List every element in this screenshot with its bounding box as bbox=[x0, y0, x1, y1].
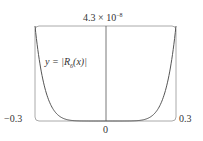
curve-label: y = |R6(x)| bbox=[45, 57, 87, 69]
curve-r6 bbox=[35, 26, 176, 121]
x-max-label: 0.3 bbox=[179, 114, 192, 124]
plot-frame bbox=[35, 26, 176, 121]
x-zero-label: 0 bbox=[103, 125, 108, 135]
x-min-label: −0.3 bbox=[4, 114, 22, 124]
y-max-label: 4.3 × 10−8 bbox=[83, 12, 123, 23]
